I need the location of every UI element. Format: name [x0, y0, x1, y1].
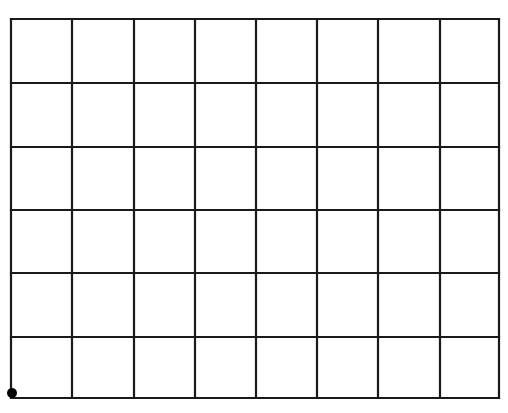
corner-dot-marker [7, 388, 17, 398]
grid-diagram [0, 0, 508, 413]
grid-lines [11, 19, 499, 398]
